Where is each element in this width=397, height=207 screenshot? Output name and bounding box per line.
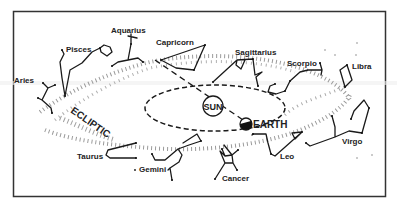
earth: EARTH [240, 118, 287, 130]
label-taurus: Taurus [77, 152, 104, 161]
label-leo: Leo [280, 152, 294, 161]
label-pisces: Pisces [66, 45, 92, 54]
zodiac-diagram: SUN EARTH ECLIPTIC Aries Pisces Aquarius… [0, 0, 397, 207]
label-virgo: Virgo [342, 137, 362, 146]
sun: SUN [203, 96, 223, 116]
label-aries: Aries [14, 76, 35, 85]
earth-label: EARTH [253, 119, 287, 130]
label-capricorn: Capricorn [156, 38, 194, 47]
label-scorpio: Scorpio [287, 59, 317, 68]
label-cancer: Cancer [222, 174, 249, 183]
sun-label: SUN [203, 102, 222, 112]
scan-artifact [0, 81, 397, 85]
label-sagittarius: Sagittarius [235, 48, 277, 57]
label-libra: Libra [352, 62, 372, 71]
diagram-frame [14, 12, 386, 197]
label-gemini: Gemini [139, 165, 166, 174]
label-aquarius: Aquarius [111, 26, 146, 35]
